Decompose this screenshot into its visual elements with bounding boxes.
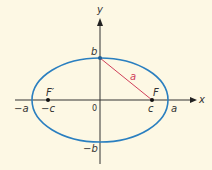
segment-b-to-focus xyxy=(100,58,152,100)
focus-right-name: F xyxy=(153,88,159,98)
point-b xyxy=(98,56,102,60)
vertex-right-label: a xyxy=(171,104,177,114)
ellipse-diagram xyxy=(0,0,212,170)
vertex-bottom-label: −b xyxy=(83,144,98,154)
segment-label: a xyxy=(130,72,136,82)
y-axis-label: y xyxy=(97,5,103,15)
y-axis-arrow-icon xyxy=(97,18,103,26)
focus-left-name: F′ xyxy=(46,88,54,98)
vertex-top-label: b xyxy=(91,47,97,57)
focus-right-coord: c xyxy=(148,104,154,114)
focus-left-point xyxy=(46,98,50,102)
x-axis-arrow-icon xyxy=(190,97,197,103)
focus-left-coord: −c xyxy=(41,104,55,114)
x-axis-label: x xyxy=(199,95,205,105)
focus-right-point xyxy=(150,98,154,102)
vertex-left-label: −a xyxy=(14,104,29,114)
origin-label: 0 xyxy=(92,104,97,114)
